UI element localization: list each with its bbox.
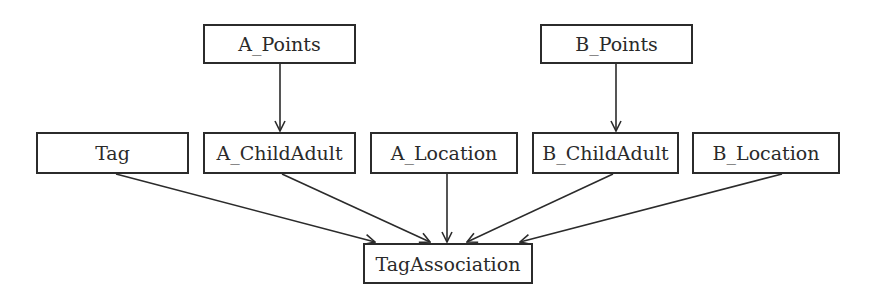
node-b-childadult: B_ChildAdult [532,132,679,174]
node-tag: Tag [36,132,189,174]
node-label: A_ChildAdult [216,142,342,164]
node-a-location: A_Location [370,132,518,174]
node-b-points: B_Points [540,24,693,64]
node-a-points: A_Points [203,24,356,64]
node-tagassociation: TagAssociation [363,243,533,284]
node-label: B_Points [575,33,658,55]
node-label: A_Points [238,33,320,55]
diagram-canvas: A_Points B_Points Tag A_ChildAdult A_Loc… [0,0,896,305]
node-label: A_Location [391,142,498,164]
edge-tag-to-tagassociation [116,174,375,242]
node-a-childadult: A_ChildAdult [203,132,356,174]
edge-b-childadult-to-tagassociation [467,174,613,242]
edge-b-location-to-tagassociation [520,174,782,242]
node-label: B_ChildAdult [542,142,668,164]
node-label: B_Location [713,142,820,164]
node-b-location: B_Location [692,132,840,174]
node-label: TagAssociation [376,253,521,275]
node-label: Tag [95,142,130,164]
edge-a-childadult-to-tagassociation [282,174,430,242]
